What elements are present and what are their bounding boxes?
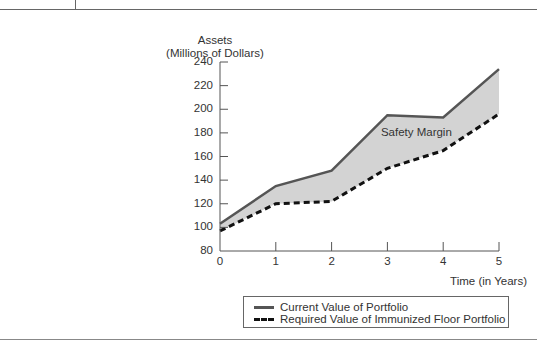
dashed-line-swatch-icon bbox=[254, 318, 274, 321]
bottom-rule bbox=[0, 339, 537, 340]
legend-item-required: Required Value of Immunized Floor Portfo… bbox=[254, 313, 505, 325]
solid-line-swatch-icon bbox=[254, 306, 274, 309]
legend-label-current: Current Value of Portfolio bbox=[280, 301, 408, 313]
legend-label-required: Required Value of Immunized Floor Portfo… bbox=[280, 313, 505, 325]
safety-margin-label: Safety Margin bbox=[381, 126, 452, 138]
safety-margin-area bbox=[220, 69, 499, 231]
plot-area bbox=[0, 0, 537, 346]
legend-item-current: Current Value of Portfolio bbox=[254, 301, 408, 313]
legend: Current Value of Portfolio Required Valu… bbox=[243, 296, 509, 328]
x-axis-label: Time (in Years) bbox=[450, 275, 527, 287]
